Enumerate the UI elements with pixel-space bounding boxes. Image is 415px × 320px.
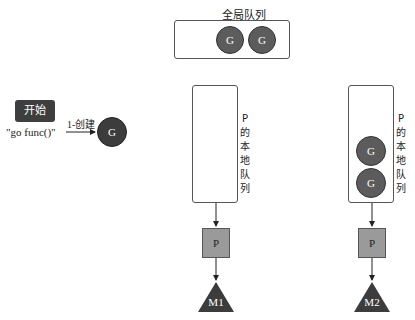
global-goroutine: G (248, 26, 276, 54)
p2-goroutine: G (356, 168, 386, 198)
new-goroutine: G (97, 117, 127, 147)
create-edge-label: 1-创建 (67, 116, 95, 131)
p2-local-queue-label: P的本地队列 (395, 112, 407, 196)
m1-label: M1 (196, 296, 236, 308)
p1-processor: P (202, 228, 230, 258)
start-node: 开始 (15, 100, 55, 122)
p1-local-queue (192, 85, 238, 203)
global-goroutine: G (216, 26, 244, 54)
go-func-label: "go func()" (6, 126, 56, 138)
p2-goroutine: G (356, 136, 386, 166)
p1-local-queue-label: P的本地队列 (239, 112, 251, 196)
p2-processor: P (358, 228, 386, 258)
m2-label: M2 (352, 296, 392, 308)
